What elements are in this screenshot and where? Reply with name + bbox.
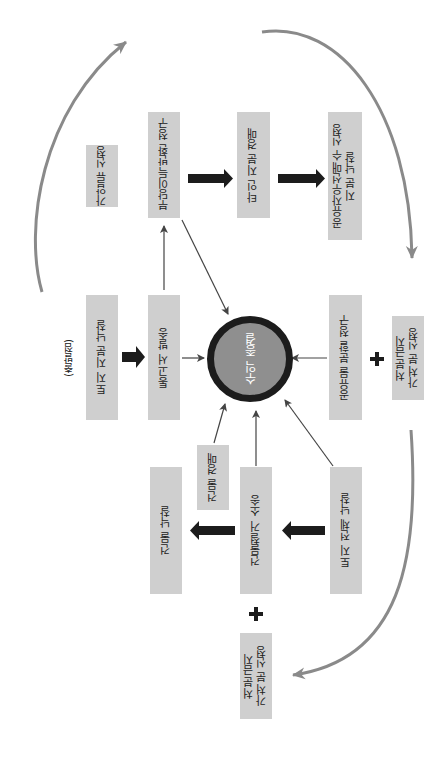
node-injunction-bottom: 처분금지 가처분 신청: [240, 633, 272, 719]
node-text: 통고서 발송: [158, 328, 171, 388]
node-building-bid: 건물 낙찰: [150, 467, 182, 594]
node-text: 토지 전체 낙찰: [340, 493, 353, 568]
node-provisional-seizure: 가압류 신청: [86, 145, 118, 207]
node-notice-sent: 통고서 발송: [148, 295, 180, 420]
node-text: 가압류 신청: [96, 146, 109, 206]
arrow-whole-land-to-center: [285, 400, 333, 466]
thick-arrow-auction-to-preemption: [278, 169, 325, 188]
node-text: 타인 지분 경매: [247, 128, 260, 203]
node-other-share-auction: 타인 지분 경매: [237, 112, 270, 218]
node-unjust-enrichment: 부당이득반환 청구: [148, 112, 180, 218]
plus-icon: [370, 352, 384, 366]
node-text: 공유자우선매수 신청 지분 낙찰: [332, 124, 358, 229]
node-text: 건물철거 소송: [250, 495, 263, 566]
node-building-auction: 건물 경매: [197, 445, 229, 510]
arrow-building-auction-to-center: [214, 404, 225, 443]
node-injunction-right: 처분금지 가처분 신청: [392, 316, 424, 400]
node-demolition-suit: 건물철거 소송: [240, 467, 272, 594]
thick-arrow-land-to-notice: [122, 346, 145, 368]
arrow-unjust-to-center: [182, 220, 228, 314]
node-text: 토지 지분 낙찰: [96, 320, 109, 395]
node-text: 처분금지 가처분 신청: [243, 646, 269, 706]
thick-arrow-whole-land-to-demolition: [282, 521, 325, 540]
thick-arrow-demolition-to-building-bid: [190, 521, 235, 540]
node-partition-claim: 공유물 분할 청구: [329, 295, 362, 420]
node-text: 부당이득반환 청구: [158, 118, 171, 211]
center-text: 수익 종결: [242, 333, 259, 385]
start-point-label: (출발점): [60, 335, 76, 380]
start-point-text: (출발점): [61, 339, 76, 377]
center-profit-close: 수익 종결: [207, 316, 293, 402]
node-whole-land-bid: 토지 전체 낙찰: [330, 467, 362, 594]
plus-icon: [249, 607, 263, 621]
node-co-owner-preemption: 공유자우선매수 신청 지분 낙찰: [328, 112, 362, 240]
node-text: 처분금지 가처분 신청: [395, 328, 421, 388]
node-land-share-bid: 토지 지분 낙찰: [86, 295, 118, 420]
node-text: 건물 낙찰: [160, 506, 173, 555]
thick-arrow-unjust-to-auction: [188, 169, 233, 188]
node-text: 건물 경매: [207, 453, 220, 502]
node-text: 공유물 분할 청구: [339, 315, 352, 401]
